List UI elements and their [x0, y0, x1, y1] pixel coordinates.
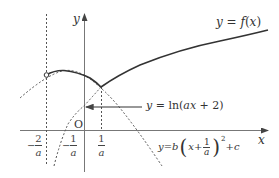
left-paren: ( — [179, 137, 187, 157]
f-curve-label: y = f(x) — [216, 16, 261, 28]
tick-label-1-over-a: 1 a — [98, 133, 105, 158]
log-curve-label: y = ln(ax + 2) — [146, 100, 224, 111]
open-circle-endpoint — [44, 73, 49, 78]
function-graph-diagram: y x O y = f(x) y = ln(ax + 2) y = b ( x … — [0, 0, 279, 178]
f-curve-parabola-part — [46, 70, 101, 87]
parabola-label: y = b ( x + 1 a ) 2 + c — [158, 137, 240, 157]
x-axis-label: x — [258, 134, 265, 146]
y-axis-label: y — [73, 13, 80, 25]
tick-label-minus-2-over-a: 2 a — [35, 133, 42, 158]
fraction-1-over-a: 1 a — [203, 138, 210, 157]
f-curve-log-part — [101, 30, 268, 87]
origin-label: O — [74, 119, 83, 130]
right-paren: ) — [212, 137, 220, 157]
tick-label-minus-1-over-a: 1 a — [70, 133, 77, 158]
